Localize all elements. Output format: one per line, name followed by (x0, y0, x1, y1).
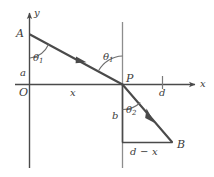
segment-label-b: b (112, 111, 118, 121)
incident-ray-arrowhead (76, 57, 87, 64)
angle-label-theta1-at-A: θ1 (33, 53, 44, 65)
x-axis-label: x (200, 79, 206, 89)
theta-subscript: 2 (132, 109, 136, 117)
segment-label-d: d (159, 88, 165, 98)
y-axis-label: y (34, 8, 40, 18)
segment-label-d-minus-x: d − x (130, 147, 158, 157)
point-label-P: P (126, 73, 133, 84)
origin-label: O (19, 87, 28, 98)
segment-label-x: x (70, 88, 76, 98)
theta-subscript: 1 (39, 57, 43, 65)
refracted-ray-arrowhead (145, 109, 155, 124)
point-label-A: A (16, 28, 24, 39)
point-label-B: B (177, 139, 185, 150)
angle-label-theta2-at-P: θ2 (126, 105, 137, 117)
theta-subscript: 1 (109, 56, 113, 64)
angle-label-theta1-at-P: θ1 (103, 52, 114, 64)
refraction-diagram: y x O A P B a x b d − x d θ1 θ1 θ2 (0, 0, 214, 177)
segment-label-a: a (20, 68, 26, 78)
